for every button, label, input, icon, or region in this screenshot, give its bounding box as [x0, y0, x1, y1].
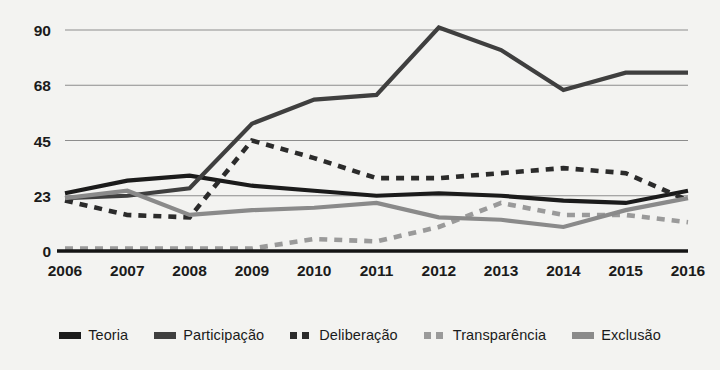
legend-item-participacao[interactable]: Participação: [154, 327, 264, 343]
legend-swatch-exclusao: [572, 332, 594, 339]
x-axis-tick-label: 2014: [546, 262, 581, 279]
x-axis-labels: 2006200720082009201020112012201320142015…: [48, 262, 706, 279]
y-axis-tick-label: 68: [34, 77, 52, 94]
x-axis-tick-label: 2013: [484, 262, 519, 279]
legend-item-exclusao[interactable]: Exclusão: [572, 327, 661, 343]
legend-swatch-deliberacao: [290, 332, 312, 339]
x-axis-tick-label: 2008: [172, 262, 207, 279]
series-line-transparencia: [65, 203, 688, 249]
legend-label-exclusao: Exclusão: [601, 327, 661, 343]
legend-label-teoria: Teoria: [88, 327, 128, 343]
y-axis-tick-label: 23: [34, 188, 52, 205]
y-axis-tick-label: 0: [42, 243, 51, 260]
line-chart: 023456890 200620072008200920102011201220…: [0, 0, 720, 370]
legend-item-deliberacao[interactable]: Deliberação: [290, 327, 397, 343]
x-axis-tick-label: 2011: [360, 262, 394, 279]
chart-plot-area: 023456890 200620072008200920102011201220…: [0, 0, 720, 370]
chart-legend: TeoriaParticipaçãoDeliberaçãoTransparênc…: [0, 322, 720, 348]
x-axis-tick-label: 2006: [48, 262, 83, 279]
y-axis-tick-label: 45: [34, 133, 52, 150]
legend-label-transparencia: Transparência: [453, 327, 546, 343]
legend-item-teoria[interactable]: Teoria: [59, 327, 128, 343]
legend-item-transparencia[interactable]: Transparência: [424, 327, 546, 343]
data-series: [65, 27, 688, 248]
x-axis-tick-label: 2007: [110, 262, 144, 279]
y-axis-tick-label: 90: [34, 22, 51, 39]
x-axis-tick-label: 2012: [422, 262, 456, 279]
legend-swatch-participacao: [154, 332, 176, 339]
x-axis-tick-label: 2016: [671, 262, 706, 279]
legend-label-deliberacao: Deliberação: [319, 327, 397, 343]
legend-swatch-teoria: [59, 332, 81, 339]
y-axis-labels: 023456890: [34, 22, 52, 260]
series-line-teoria: [65, 176, 688, 203]
legend-swatch-transparencia: [424, 332, 446, 339]
legend-label-participacao: Participação: [183, 327, 264, 343]
x-axis-tick-label: 2010: [297, 262, 331, 279]
x-axis-tick-label: 2015: [608, 262, 643, 279]
x-axis-tick-label: 2009: [235, 262, 270, 279]
